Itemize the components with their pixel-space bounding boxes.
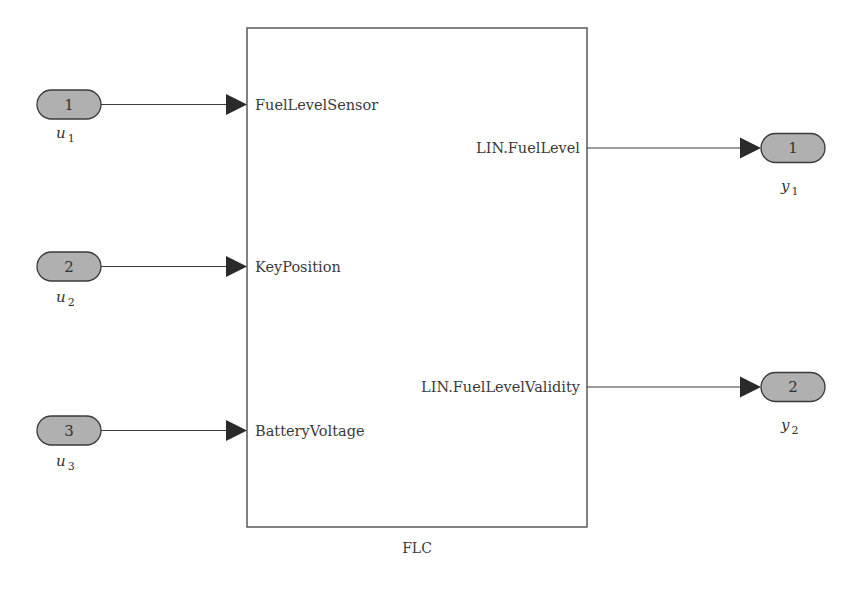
outport-2-variable: y2 [780, 416, 798, 437]
inport-3-variable: u3 [56, 452, 75, 473]
outport-1-arrow-icon [740, 138, 761, 159]
outport-2-number: 2 [788, 378, 798, 396]
inport-2-variable: u2 [56, 288, 75, 309]
inport-1[interactable]: 1 [37, 90, 101, 119]
input-label-key-position: KeyPosition [255, 259, 341, 275]
inport-2-arrow-icon [226, 256, 247, 277]
inport-3-number: 3 [64, 422, 74, 440]
inport-1-arrow-icon [226, 94, 247, 115]
inport-3[interactable]: 3 [37, 416, 101, 445]
output-label-lin-fuel-level: LIN.FuelLevel [476, 140, 580, 156]
outport-1-number: 1 [788, 139, 798, 157]
inport-1-number: 1 [64, 96, 74, 114]
outport-1-variable: y1 [780, 177, 798, 198]
outport-2-arrow-icon [740, 377, 761, 398]
inport-2[interactable]: 2 [37, 252, 101, 281]
diagram-canvas: FLC 1 u1 FuelLevelSensor 2 u2 KeyPositio… [0, 0, 859, 589]
input-label-battery-voltage: BatteryVoltage [255, 423, 365, 439]
input-label-fuel-level-sensor: FuelLevelSensor [255, 97, 378, 113]
outport-1[interactable]: 1 [761, 134, 825, 163]
outport-2[interactable]: 2 [761, 373, 825, 402]
inport-2-number: 2 [64, 258, 74, 276]
inport-3-arrow-icon [226, 420, 247, 441]
inport-1-variable: u1 [56, 124, 75, 145]
output-label-lin-fuel-level-validity: LIN.FuelLevelValidity [421, 379, 581, 395]
block-name-label: FLC [402, 540, 432, 556]
